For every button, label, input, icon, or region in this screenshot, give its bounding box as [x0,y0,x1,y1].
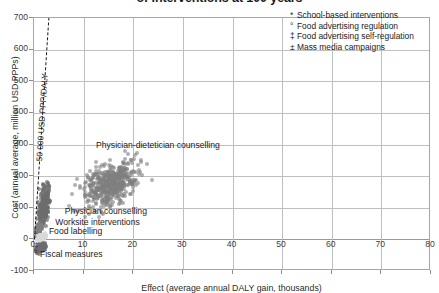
chart-title: of interventions at 100 years [0,0,439,5]
y-tick-mark [29,144,33,145]
legend-item: °Food advertising regulation [290,21,414,32]
scatter-point [108,158,112,162]
scatter-point [102,182,106,186]
threshold-label: 50 000 USD PPP/DALY [35,73,50,162]
x-tick-label: 70 [367,240,393,249]
scatter-point [114,179,118,183]
x-tick-mark [331,270,332,274]
x-tick-mark [83,270,84,274]
scatter-point [91,172,95,176]
scatter-point [87,199,91,203]
scatter-point [145,162,149,166]
x-axis-title: Effect (average annual DALY gain, thousa… [33,283,430,293]
scatter-point [104,192,108,196]
x-tick-label: 60 [318,240,344,249]
x-tick-label: 30 [169,240,195,249]
legend-item: *School-based interventions [290,10,414,21]
x-tick-mark [232,270,233,274]
scatter-point [91,176,95,180]
y-tick-mark [29,207,33,208]
y-tick-label: 500 [2,76,28,85]
x-tick-label: 20 [119,240,145,249]
scatter-point [94,160,98,164]
y-tick-label: 200 [2,171,28,180]
gridline-horizontal [34,145,429,146]
x-tick-label: 0 [20,240,46,249]
x-tick-label: 50 [268,240,294,249]
scatter-point [131,169,135,173]
scatter-point [94,165,98,169]
scatter-point [109,192,113,196]
x-tick-mark [380,270,381,274]
scatter-point [150,178,154,182]
gridline-horizontal [34,81,429,82]
legend-label: Mass media campaigns [297,42,385,52]
legend-item: ±Mass media campaigns [290,42,414,53]
x-tick-label: 40 [219,240,245,249]
scatter-point [118,169,122,173]
scatter-point [115,187,119,191]
scatter-point [73,183,77,187]
scatter-point [103,170,107,174]
gridline-vertical [381,18,382,269]
legend-marker-icon: ± [290,42,297,53]
legend-label: School-based interventions [297,10,398,20]
scatter-point [46,210,50,214]
scatter-point [46,181,50,185]
x-tick-mark [132,270,133,274]
scatter-point [75,177,79,181]
scatter-point [47,189,51,193]
x-tick-label: 10 [70,240,96,249]
scatter-point [100,163,104,167]
legend-label: Food advertising self-regulation [297,31,414,41]
scatter-point [38,235,42,239]
scatter-point [86,176,90,180]
scatter-point [83,181,87,185]
scatter-point [43,203,47,207]
x-tick-mark [430,270,431,274]
gridline-vertical [282,18,283,269]
scatter-point [129,192,133,196]
scatter-point [42,193,46,197]
y-tick-mark [29,17,33,18]
scatter-point [46,195,50,199]
scatter-point [107,163,111,167]
gridline-vertical [233,18,234,269]
y-tick-label: 100 [2,202,28,211]
chart-legend: *School-based interventions°Food adverti… [290,10,414,52]
legend-item: ‡Food advertising self-regulation [290,31,414,42]
y-tick-mark [29,80,33,81]
x-tick-mark [33,270,34,274]
y-tick-mark [29,49,33,50]
gridline-horizontal [34,113,429,114]
scatter-point [126,152,130,156]
y-tick-label: 400 [2,107,28,116]
scatter-point [94,201,98,205]
scatter-point [122,169,126,173]
y-tick-label: 600 [2,44,28,53]
gridline-vertical [332,18,333,269]
x-tick-label: 80 [417,240,439,249]
legend-marker-icon: * [290,10,297,21]
plot-area: 50 000 USD PPP/DALYPhysician-dietetician… [33,17,430,270]
legend-marker-icon: ‡ [290,31,297,42]
scatter-point [70,192,74,196]
scatter-point [132,157,136,161]
x-tick-mark [281,270,282,274]
cluster-annotation: Physician counselling [65,207,147,216]
scatter-point [136,163,140,167]
cluster-annotation: Fiscal measures [40,250,103,259]
legend-marker-icon: ° [290,21,297,32]
scatter-point [136,181,140,185]
cluster-annotation: Physician-dietetician counselling [96,141,220,150]
y-tick-mark [29,175,33,176]
scatter-point [118,201,122,205]
y-tick-label: 700 [2,13,28,22]
x-tick-mark [182,270,183,274]
y-tick-label: 300 [2,139,28,148]
y-tick-mark [29,112,33,113]
scatter-point [139,158,143,162]
legend-label: Food advertising regulation [297,21,398,31]
y-tick-label: -100 [2,266,28,275]
